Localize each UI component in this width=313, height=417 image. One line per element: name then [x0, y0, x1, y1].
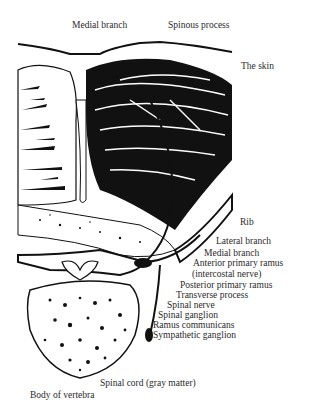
label-spinal-nerve: Spinal nerve	[167, 300, 215, 310]
label-rib: Rib	[240, 217, 254, 227]
sympathetic-ganglion	[145, 328, 153, 342]
label-anterior-primary-ramus: Anterior primary ramus	[193, 258, 283, 268]
label-sympathetic-ganglion: Sympathetic ganglion	[153, 330, 236, 340]
label-medial-branch: Medial branch	[204, 248, 259, 258]
label-body-of-vertebra: Body of vertebra	[30, 390, 94, 400]
label-spinal-cord: Spinal cord (gray matter)	[100, 378, 196, 388]
label-posterior-primary-ramus: Posterior primary ramus	[180, 280, 272, 290]
label-medial-branch-top: Medial branch	[72, 20, 127, 30]
label-the-skin: The skin	[241, 61, 274, 71]
label-spinous-process: Spinous process	[168, 20, 230, 30]
spinous-process	[76, 100, 86, 203]
label-lateral-branch: Lateral branch	[216, 236, 271, 246]
label-transverse-process: Transverse process	[176, 290, 248, 300]
left-muscle	[18, 65, 76, 205]
spinal-ganglion	[134, 258, 152, 268]
vertebral-body	[28, 281, 140, 378]
label-spinal-ganglion: Spinal ganglion	[158, 310, 218, 320]
skin-line	[18, 42, 232, 54]
label-intercostal-nerve: (intercostal nerve)	[192, 269, 261, 279]
label-ramus-communicans: Ramus communicans	[153, 320, 235, 330]
